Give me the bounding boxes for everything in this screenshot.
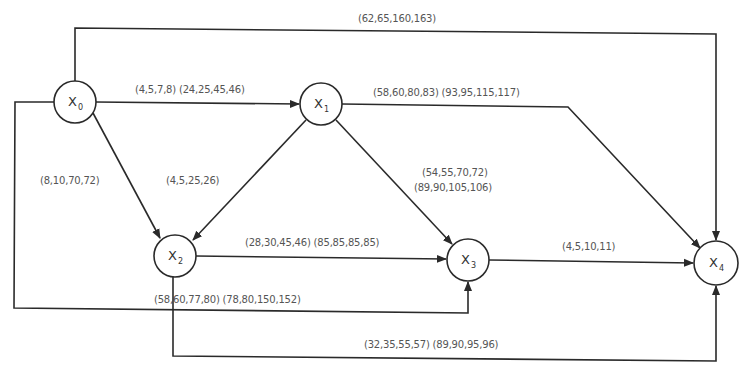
node-x2-label: X [168, 248, 177, 263]
edge-x0-x2[interactable]: (8,10,70,72) [40, 113, 160, 238]
edge-label-x3-x4: (4,5,10,11) [562, 241, 616, 252]
edge-label-x0-x4: (62,65,160,163) [358, 13, 436, 24]
edge-x0-x4[interactable]: (62,65,160,163) [75, 13, 716, 240]
edge-x0-x3[interactable]: (58,60,77,80) (78,80,150,152) [14, 102, 468, 313]
edge-label-x1-x3-line1: (54,55,70,72) [422, 167, 488, 178]
edge-x1-x4[interactable]: (58,60,80,83) (93,95,115,117) [342, 87, 700, 248]
node-x1-subscript: 1 [324, 105, 329, 114]
edge-x2-x4[interactable]: (32,35,55,57) (89,90,95,96) [173, 277, 716, 361]
edge-x1-x2[interactable]: (4,5,25,26) [166, 120, 306, 240]
network-diagram: (62,65,160,163) (4,5,7,8) (24,25,45,46) … [0, 0, 748, 374]
node-x0[interactable]: X 0 [54, 81, 96, 123]
edge-label-x1-x3-line2: (89,90,105,106) [414, 182, 492, 193]
edge-x3-x4[interactable]: (4,5,10,11) [489, 241, 693, 263]
node-x1[interactable]: X 1 [300, 83, 342, 125]
edge-label-x1-x2: (4,5,25,26) [166, 175, 220, 186]
edge-label-x0-x2: (8,10,70,72) [40, 175, 100, 186]
node-x3-subscript: 3 [471, 261, 476, 270]
node-x4[interactable]: X 4 [694, 241, 738, 285]
node-x2[interactable]: X 2 [154, 235, 196, 277]
node-x0-label: X [68, 94, 77, 109]
node-x4-subscript: 4 [719, 264, 724, 273]
edge-label-x1-x4: (58,60,80,83) (93,95,115,117) [373, 87, 520, 98]
edge-label-x0-x1: (4,5,7,8) (24,25,45,46) [135, 84, 245, 95]
node-x0-subscript: 0 [78, 103, 83, 112]
edge-label-x2-x3: (28,30,45,46) (85,85,85,85) [245, 237, 380, 248]
node-x3-label: X [461, 252, 470, 267]
edge-label-x0-x3: (58,60,77,80) (78,80,150,152) [154, 294, 301, 305]
edge-x0-x1[interactable]: (4,5,7,8) (24,25,45,46) [96, 84, 299, 104]
edge-x1-x3[interactable]: (54,55,70,72) (89,90,105,106) [336, 120, 492, 244]
node-x1-label: X [314, 96, 323, 111]
node-x3[interactable]: X 3 [447, 239, 489, 281]
edge-x2-x3[interactable]: (28,30,45,46) (85,85,85,85) [196, 237, 446, 259]
edges: (62,65,160,163) (4,5,7,8) (24,25,45,46) … [14, 13, 716, 361]
node-x4-label: X [709, 255, 718, 270]
node-x2-subscript: 2 [178, 257, 183, 266]
edge-label-x2-x4: (32,35,55,57) (89,90,95,96) [364, 339, 499, 350]
